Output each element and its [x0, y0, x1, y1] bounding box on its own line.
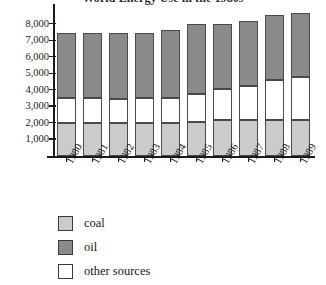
legend-swatch-oil: [58, 240, 73, 255]
bar-1982[interactable]: [109, 33, 128, 156]
bar-segment-oil[interactable]: [109, 33, 128, 100]
bar-segment-oil[interactable]: [135, 33, 154, 99]
bar-segment-oil[interactable]: [291, 13, 310, 77]
legend-swatch-other: [58, 264, 73, 279]
bar-1989[interactable]: [291, 13, 310, 156]
bar-segment-oil[interactable]: [161, 30, 180, 98]
bar-segment-other-sources[interactable]: [57, 98, 76, 123]
bar-segment-oil[interactable]: [57, 33, 76, 99]
y-axis-tick-label: 1,000: [25, 134, 49, 145]
chart-container: World Energy Use in the 1980s 1,0002,000…: [0, 0, 326, 285]
y-axis-tick-label: 6,000: [25, 52, 49, 63]
bar-segment-oil[interactable]: [265, 15, 284, 80]
y-axis-tick-label: 3,000: [25, 101, 49, 112]
y-axis-tick-label: 4,000: [25, 85, 49, 96]
bar-segment-other-sources[interactable]: [291, 77, 310, 120]
bar-1983[interactable]: [135, 33, 154, 156]
y-axis-tick-label: 7,000: [25, 35, 49, 46]
y-axis-tick-label: 8,000: [25, 19, 49, 30]
x-axis-labels: 1980198119821983198419851986198719881989: [53, 158, 313, 204]
bar-segment-oil[interactable]: [239, 21, 258, 86]
bar-segment-oil[interactable]: [213, 24, 232, 88]
chart-title: World Energy Use in the 1980s: [0, 0, 326, 6]
legend-label: oil: [84, 241, 97, 254]
bar-segment-other-sources[interactable]: [83, 98, 102, 123]
bar-segment-other-sources[interactable]: [187, 94, 206, 123]
legend-swatch-coal: [58, 216, 73, 231]
y-axis-tick-label: 5,000: [25, 68, 49, 79]
bar-segment-other-sources[interactable]: [135, 98, 154, 123]
chart-legend: coaloilother sources: [58, 211, 298, 283]
bar-1981[interactable]: [83, 33, 102, 156]
legend-label: coal: [84, 217, 105, 230]
bar-segment-oil[interactable]: [187, 24, 206, 93]
y-axis-labels: 1,0002,0003,0004,0005,0006,0007,0008,000: [0, 8, 49, 156]
plot-area: [53, 8, 313, 156]
legend-label: other sources: [84, 265, 150, 278]
y-axis-tick-label: 2,000: [25, 118, 49, 129]
bar-segment-other-sources[interactable]: [213, 89, 232, 120]
legend-item-coal[interactable]: coal: [58, 211, 298, 235]
legend-item-other-sources[interactable]: other sources: [58, 259, 298, 283]
bar-1987[interactable]: [239, 21, 258, 156]
legend-item-oil[interactable]: oil: [58, 235, 298, 259]
bar-1985[interactable]: [187, 24, 206, 156]
bar-1986[interactable]: [213, 24, 232, 156]
bar-segment-oil[interactable]: [83, 33, 102, 99]
bar-1988[interactable]: [265, 15, 284, 156]
bar-segment-other-sources[interactable]: [239, 86, 258, 120]
bar-1984[interactable]: [161, 30, 180, 156]
bar-segment-other-sources[interactable]: [109, 99, 128, 123]
bar-1980[interactable]: [57, 33, 76, 156]
bar-segment-other-sources[interactable]: [265, 80, 284, 120]
bar-segment-other-sources[interactable]: [161, 98, 180, 123]
